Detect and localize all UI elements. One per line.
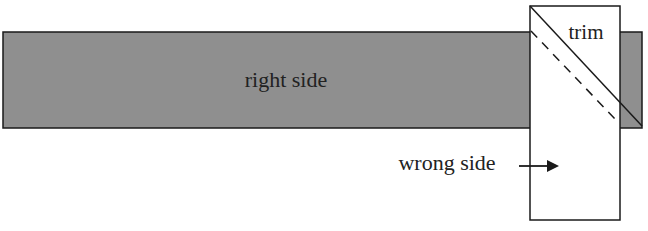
trim-label: trim — [569, 20, 604, 44]
right-side-label: right side — [245, 67, 328, 92]
binding-trim-diagram: right side trim wrong side — [0, 0, 648, 231]
wrong-side-label: wrong side — [398, 150, 495, 175]
